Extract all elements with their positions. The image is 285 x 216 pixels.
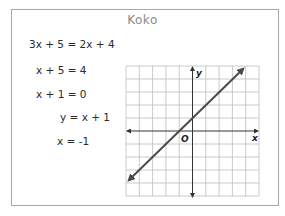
step-5: x = -1 <box>57 135 89 147</box>
y-axis-label: y <box>196 68 203 78</box>
coordinate-graph: y x O <box>120 60 265 205</box>
step-3: x + 1 = 0 <box>36 88 87 100</box>
x-axis-label: x <box>251 133 259 143</box>
student-name-title: Koko <box>0 13 285 27</box>
step-4: y = x + 1 <box>60 111 110 123</box>
origin-label: O <box>181 134 189 144</box>
step-2: x + 5 = 4 <box>36 64 87 76</box>
graphed-line <box>129 69 243 180</box>
step-1: 3x + 5 = 2x + 4 <box>29 38 115 50</box>
